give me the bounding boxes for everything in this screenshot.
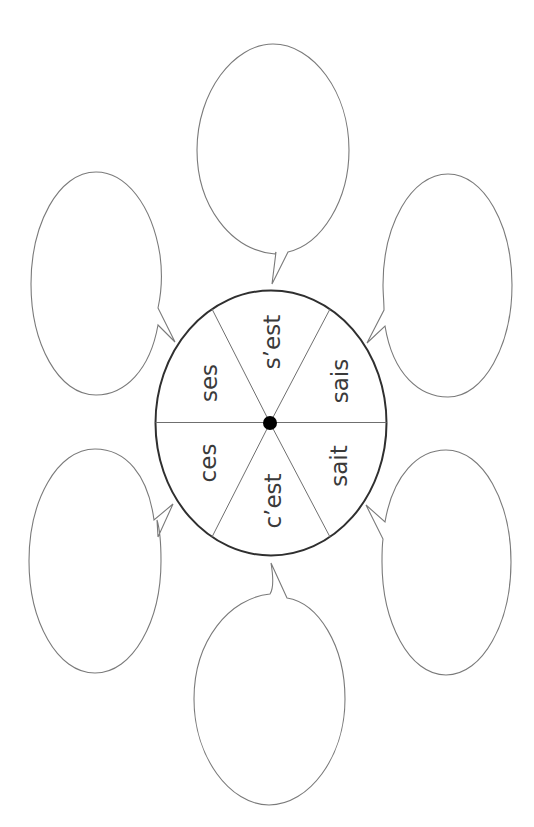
speech-bubble-bottom[interactable] — [194, 563, 345, 805]
segment-label-cest: c’est — [260, 473, 286, 528]
wheel-center-dot — [263, 416, 277, 430]
segment-label-ses: ses — [196, 364, 222, 402]
speech-bubble-top[interactable] — [197, 44, 349, 284]
speech-bubble-bottom-left[interactable] — [29, 449, 173, 673]
segment-label-sest: s’est — [259, 315, 285, 369]
speech-bubble-top-right[interactable] — [367, 174, 512, 397]
segment-label-ces: ces — [195, 444, 221, 483]
word-wheel-diagram: ses s’est sais ces c’est sait — [0, 0, 534, 827]
speech-bubble-bottom-right[interactable] — [366, 450, 511, 675]
speech-bubble-top-left[interactable] — [31, 172, 175, 395]
segment-label-sais: sais — [327, 359, 353, 403]
word-wheel: ses s’est sais ces c’est sait — [156, 291, 387, 556]
segment-label-sait: sait — [326, 445, 352, 487]
